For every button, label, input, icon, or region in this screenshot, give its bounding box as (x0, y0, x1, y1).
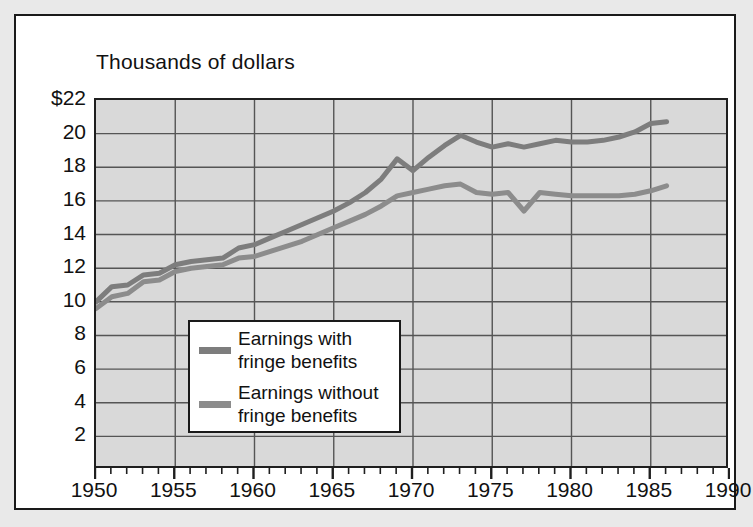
x-tick-label: 1960 (229, 478, 276, 502)
legend-label-without-fringe: Earnings without fringe benefits (238, 381, 378, 427)
legend-item-without-fringe: Earnings without fringe benefits (190, 376, 399, 432)
x-tick-label: 1955 (150, 478, 197, 502)
y-tick-label: $22 (51, 86, 86, 110)
series-line-1 (96, 184, 667, 308)
legend-swatch-without-fringe (199, 401, 231, 408)
chart-frame: Thousands of dollars $222018161412108642… (14, 14, 736, 510)
chart-legend: Earnings with fringe benefits Earnings w… (188, 320, 401, 433)
y-tick-label: 6 (74, 355, 86, 379)
y-tick-label: 16 (63, 187, 86, 211)
y-tick-label: 10 (63, 288, 86, 312)
x-tick-label: 1990 (705, 478, 752, 502)
y-tick-label: 8 (74, 321, 86, 345)
y-tick-label: 4 (74, 389, 86, 413)
x-tick-label: 1965 (308, 478, 355, 502)
screenshot-page: Thousands of dollars $222018161412108642… (0, 0, 753, 527)
y-tick-label: 20 (63, 120, 86, 144)
series-line-0 (96, 122, 667, 302)
legend-item-with-fringe: Earnings with fringe benefits (190, 322, 399, 378)
x-tick-label: 1950 (71, 478, 118, 502)
y-axis-tick-labels: $222018161412108642 (16, 98, 86, 468)
page-title: Thousands of dollars (96, 50, 295, 74)
y-tick-label: 2 (74, 422, 86, 446)
x-tick-label: 1980 (546, 478, 593, 502)
legend-label-with-fringe: Earnings with fringe benefits (238, 327, 357, 373)
x-axis-tick-labels: 195019551960196519701975198019851990 (94, 478, 728, 508)
y-tick-label: 18 (63, 153, 86, 177)
x-tick-label: 1970 (388, 478, 435, 502)
y-tick-label: 14 (63, 221, 86, 245)
legend-swatch-with-fringe (199, 347, 231, 354)
y-tick-label: 12 (63, 254, 86, 278)
x-tick-label: 1985 (625, 478, 672, 502)
x-tick-label: 1975 (467, 478, 514, 502)
